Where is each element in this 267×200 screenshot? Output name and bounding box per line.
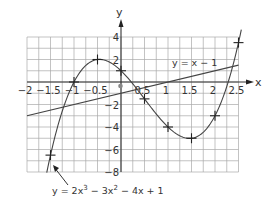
y-axis-label: y (116, 6, 123, 19)
y-axis-arrow-icon (119, 19, 124, 27)
x-tick-label: −0.5 (83, 85, 107, 96)
arrowhead-icon (53, 165, 59, 172)
cubic-label-part3: − 4x + 1 (118, 185, 164, 196)
y-tick-label: −4 (104, 122, 119, 133)
y-tick-label: −8 (104, 167, 119, 178)
y-tick-label: 4 (113, 32, 119, 43)
cubic-label-part2: − 3x (88, 185, 114, 196)
x-axis-label: x (255, 76, 262, 89)
x-tick-label: 2.5 (229, 85, 245, 96)
x-tick-label: 2 (210, 85, 216, 96)
tick-labels: −2−1.5−1−0.50.511.522.542−2−4−6−8 (18, 32, 245, 178)
cubic-label-part1: y = 2x (52, 185, 84, 196)
origin-marker (118, 84, 123, 89)
annotation-arrow (53, 165, 68, 185)
cubic-equation-label: y = 2x3 − 3x2 − 4x + 1 (52, 184, 164, 196)
x-tick-label: 1 (163, 85, 169, 96)
line-equation-label: y = x − 1 (172, 57, 217, 68)
x-axis-arrow-icon (246, 80, 254, 85)
cubic-and-line-graph: −2−1.5−1−0.50.511.522.542−2−4−6−8 x y y … (0, 0, 267, 200)
x-tick-label: −2 (18, 85, 33, 96)
y-tick-label: −6 (104, 145, 119, 156)
x-tick-label: 1.5 (182, 85, 198, 96)
x-tick-label: −1.5 (36, 85, 60, 96)
y-tick-label: 2 (113, 55, 119, 66)
curves (27, 30, 241, 173)
y-tick-label: −2 (104, 100, 119, 111)
